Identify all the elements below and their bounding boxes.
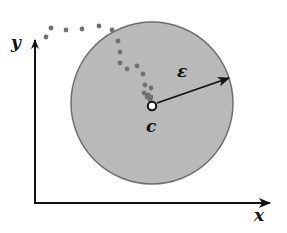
sequence-point [141,72,146,77]
sequence-point [125,67,130,72]
center-point-c [148,102,156,110]
center-label: c [146,118,156,135]
sequence-point [135,64,140,69]
radius-label: ε [177,63,187,80]
diagram-canvas: y x c ε [0,0,287,233]
sequence-point [116,39,121,44]
sequence-point [64,28,69,33]
sequence-point [118,50,123,55]
sequence-point [143,83,148,88]
sequence-point [110,28,115,33]
x-axis-label: x [254,207,264,224]
sequence-point [80,27,85,32]
y-axis-label: y [11,34,21,51]
sequence-point [149,86,154,91]
diagram-figure [0,0,287,233]
sequence-point [44,35,49,40]
sequence-point [49,26,54,31]
sequence-point [118,61,123,66]
sequence-point [97,24,102,29]
